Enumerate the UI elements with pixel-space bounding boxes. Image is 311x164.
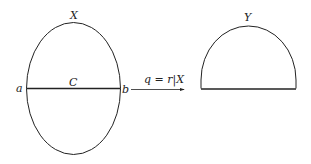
label-b: b — [122, 83, 129, 96]
label-c: C — [69, 76, 78, 89]
label-y: Y — [244, 11, 253, 24]
map-arrow: q = r|X — [131, 73, 185, 90]
space-x: X C a b — [16, 9, 129, 155]
label-map: q = r|X — [144, 73, 185, 87]
space-y: Y — [201, 11, 296, 89]
label-x: X — [69, 9, 79, 22]
diagram-canvas: X C a b q = r|X Y — [0, 0, 311, 164]
label-a: a — [16, 82, 23, 95]
dome-y — [201, 26, 296, 88]
